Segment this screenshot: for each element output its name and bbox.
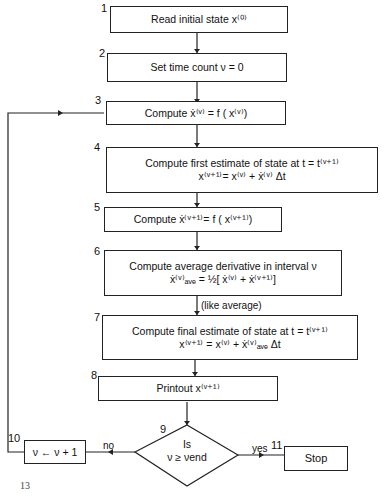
step-number-11: 11: [271, 439, 282, 451]
step-text: ν ← ν + 1: [33, 446, 78, 459]
step-read-initial-state: Read initial state x⁽⁰⁾: [110, 6, 288, 33]
step-line1: Compute final estimate of state at t = t…: [132, 325, 328, 338]
decision-line1: Is: [150, 438, 224, 451]
step-number-2: 2: [99, 47, 105, 59]
decision-line2: ν ≥ νend: [150, 451, 224, 464]
step-number-8: 8: [91, 369, 97, 381]
step-number-4: 4: [94, 141, 100, 153]
step-number-1: 1: [101, 2, 107, 14]
decision-text: Is ν ≥ νend: [150, 438, 224, 464]
step-line2: x⁽ᵛ⁺¹⁾ = x⁽ᵛ⁾ + ẋ⁽ᵛ⁾ₐᵥₑ Δt: [179, 338, 280, 351]
step-text: Compute ẋ⁽ᵛ⁾ = f ( x⁽ᵛ⁾): [145, 107, 247, 120]
step-compute-next-derivative: Compute ẋ⁽ᵛ⁺¹⁾= f ( x⁽ᵛ⁺¹⁾): [104, 207, 282, 232]
step-number-9: 9: [160, 423, 166, 435]
step-text: Compute ẋ⁽ᵛ⁺¹⁾= f ( x⁽ᵛ⁺¹⁾): [134, 213, 253, 226]
page-mark: 13: [20, 480, 30, 491]
step-text: Printout x⁽ᵛ⁺¹⁾: [156, 382, 219, 395]
step-set-time-count: Set time count ν = 0: [107, 53, 287, 82]
step-final-estimate: Compute final estimate of state at t = t…: [102, 315, 358, 360]
like-average-annotation: (like average): [201, 300, 262, 311]
no-label: no: [103, 440, 114, 451]
step-line1: Compute average derivative in interval ν: [129, 260, 316, 273]
step-average-derivative: Compute average derivative in interval ν…: [104, 250, 342, 296]
step-first-estimate: Compute first estimate of state at t = t…: [106, 147, 378, 193]
step-text: Set time count ν = 0: [150, 61, 243, 74]
step-line2: x⁽ᵛ⁺¹⁾= x⁽ᵛ⁾ + ẋ⁽ᵛ⁾ Δt: [198, 170, 285, 183]
step-stop: Stop: [284, 446, 348, 471]
yes-label: yes: [252, 443, 268, 454]
step-number-5: 5: [94, 201, 100, 213]
step-text: Stop: [305, 452, 328, 465]
step-compute-derivative: Compute ẋ⁽ᵛ⁾ = f ( x⁽ᵛ⁾): [106, 101, 286, 125]
step-number-7: 7: [94, 311, 100, 323]
step-line2: ẋ⁽ᵛ⁾ₐᵥₑ = ½[ ẋ⁽ᵛ⁾ + ẋ⁽ᵛ⁺¹⁾]: [170, 273, 276, 286]
step-printout: Printout x⁽ᵛ⁺¹⁾: [98, 376, 278, 401]
step-line1: Compute first estimate of state at t = t…: [145, 157, 339, 170]
step-text: Read initial state x⁽⁰⁾: [151, 13, 247, 26]
step-number-10: 10: [8, 432, 20, 444]
step-number-6: 6: [94, 245, 100, 257]
step-increment: ν ← ν + 1: [24, 440, 86, 464]
step-number-3: 3: [95, 94, 101, 106]
